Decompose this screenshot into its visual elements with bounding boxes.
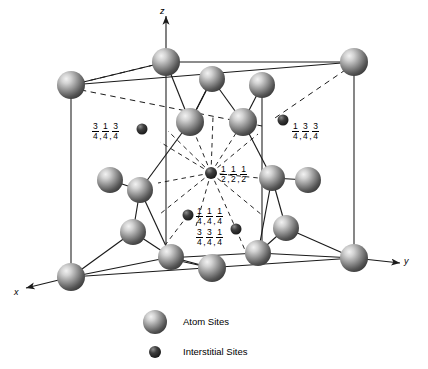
interstitial-label-1-3-3: 1 4 , 3 4 , 3 4 [292,122,319,141]
atom-site [120,219,146,245]
legend-interstitial-marker [149,346,161,358]
ray-1 [168,131,211,173]
fraction: 1 4 [216,228,223,247]
fraction: 3 4 [112,122,119,141]
figure-canvas: 3 4 , 1 4 , 3 4 1 4 , 3 4 , 3 4 1 2 , [0,0,428,369]
fraction: 1 4 [102,122,109,141]
interstitial-label-quarters: 1 4 , 1 4 , 1 4 [196,207,223,226]
atom-site [340,244,368,272]
atom-site [229,108,257,136]
fraction: 3 4 [206,228,213,247]
atom-site [127,177,153,203]
legend-label-atom-sites: Atom Sites [183,316,229,327]
interstitial-site [278,115,289,126]
edge-bottom-front-right [258,253,354,258]
axis-label-y: y [404,256,409,266]
interstitial-site [137,124,148,135]
interstitial-site [205,167,217,179]
interstitial-site [183,210,194,221]
axis-label-z: z [160,6,165,16]
legend-label-interstitial-sites: Interstitial Sites [183,346,247,357]
atom-site [245,240,271,266]
atom-site [340,48,368,76]
fraction: 1 2 [240,165,247,184]
legend-atom-marker [143,310,167,334]
atom-site [198,254,226,282]
atom-site [176,108,204,136]
fraction: 3 4 [302,122,309,141]
atom-site [158,244,184,270]
atom-site [97,167,123,193]
interstitial-label-3-3-1: 3 4 , 3 4 , 1 4 [196,228,223,247]
hidden-edge-back-right-diag [272,64,354,120]
interstitial-label-3-1-3: 3 4 , 1 4 , 3 4 [92,122,119,141]
atom-site [259,165,285,191]
fraction: 3 4 [196,228,203,247]
fraction: 1 2 [220,165,227,184]
crystal-structure-svg [0,0,428,369]
ray-3 [211,117,213,173]
fraction: 1 2 [230,165,237,184]
fraction: 1 4 [196,207,203,226]
ray-12 [160,142,211,173]
interstitial-label-half-half-half: 1 2 , 1 2 , 1 2 [220,165,247,184]
fraction: 3 4 [312,122,319,141]
atom-site [57,71,85,99]
fraction: 1 4 [206,207,213,226]
atom-site [152,48,180,76]
axis-label-x: x [14,287,19,297]
legend-markers [143,310,167,358]
atom-site [199,66,225,92]
atom-site [57,263,85,291]
fraction: 1 4 [292,122,299,141]
fraction: 3 4 [92,122,99,141]
atom-site [249,72,275,98]
atom-site [295,167,321,193]
interstitial-site [231,224,242,235]
atom-site [273,215,299,241]
fraction: 1 4 [216,207,223,226]
